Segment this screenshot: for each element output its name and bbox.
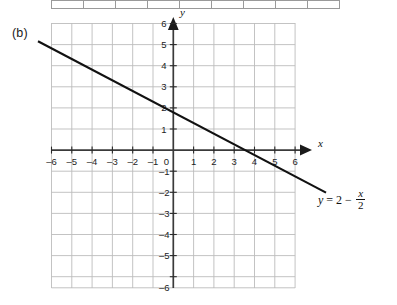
equation-lhs: y — [318, 193, 323, 207]
x-tick-label: –5 — [67, 156, 78, 167]
x-tick-label: –4 — [87, 156, 98, 167]
y-tick-label: 4 — [161, 60, 166, 71]
y-tick-label: 5 — [161, 39, 166, 50]
x-tick-label: 6 — [292, 156, 297, 167]
x-tick-label: 4 — [252, 156, 257, 167]
x-tick-label: 3 — [232, 156, 237, 167]
y-tick-label: –4 — [159, 229, 170, 240]
y-tick-label: –2 — [159, 187, 170, 198]
x-tick-label: 2 — [211, 156, 216, 167]
x-tick-label: 1 — [191, 156, 196, 167]
fraction-numerator: x — [356, 188, 366, 199]
x-tick-label: –1 — [148, 156, 159, 167]
y-tick-label: 6 — [161, 18, 166, 29]
line-series-y-equals-2-minus-x-over-2 — [38, 41, 326, 192]
cartesian-plot: –6 –5 –4 –3 –2 –1 0 1 2 3 4 5 6 6 5 4 3 … — [0, 0, 397, 305]
x-tick-label: –3 — [107, 156, 118, 167]
y-tick-label: 3 — [161, 81, 166, 92]
y-tick-label: –6 — [159, 282, 170, 293]
equation-label: y=2−x2 — [318, 188, 365, 211]
x-tick-label: –2 — [127, 156, 138, 167]
y-tick-label: –3 — [159, 208, 170, 219]
equation-equals: = — [326, 193, 333, 207]
x-axis-arrow-icon — [300, 145, 312, 156]
equation-minus: − — [345, 193, 352, 207]
y-axis — [168, 17, 179, 288]
y-tick-label: 1 — [161, 124, 166, 135]
graph-figure: –6 –5 –4 –3 –2 –1 0 1 2 3 4 5 6 6 5 4 3 … — [0, 0, 397, 305]
equation-constant: 2 — [336, 193, 342, 207]
x-tick-label: –6 — [46, 156, 57, 167]
equation-fraction: x2 — [356, 188, 366, 211]
x-axis — [52, 145, 313, 156]
y-axis-label: y — [179, 6, 185, 18]
fraction-denominator: 2 — [356, 199, 366, 211]
x-axis-label: x — [317, 137, 323, 149]
panel-label: (b) — [12, 26, 28, 40]
y-tick-label: –5 — [159, 250, 170, 261]
y-tick-label: –1 — [159, 166, 170, 177]
